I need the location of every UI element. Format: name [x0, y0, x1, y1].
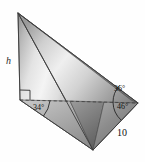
angle-label-upper-right: 36°	[114, 85, 125, 93]
angle-label-base-left: 34°	[33, 104, 44, 112]
edge-length-label: 10	[117, 128, 127, 138]
angle-label-lower-right: 46°	[117, 103, 128, 111]
height-label: h	[6, 56, 11, 66]
geometry-figure: h 34° 36° 46° 10	[0, 0, 145, 162]
